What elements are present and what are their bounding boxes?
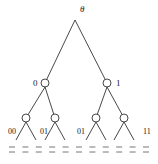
edge-l1-1-1 <box>107 87 122 114</box>
edge-leaf-right-0 <box>26 122 36 140</box>
tree-node-circle <box>51 114 59 122</box>
binary-tree-diagram: θ0100010111 <box>0 0 158 164</box>
level1-label-0: 0 <box>33 78 38 88</box>
edge-l1-0-0 <box>28 87 45 115</box>
tree-node-circle <box>92 114 100 122</box>
edge-root-1 <box>75 20 105 79</box>
edge-l1-0-1 <box>45 87 54 114</box>
leaf-label-1: 01 <box>40 127 48 136</box>
leaf-label-2: 01 <box>77 127 85 136</box>
tree-node-circle <box>120 114 128 122</box>
edge-root-0 <box>47 20 75 79</box>
leaf-dash-rows <box>9 147 149 152</box>
root-label: θ <box>80 4 85 14</box>
edge-leaf-right-1 <box>55 122 65 140</box>
level1-label-1: 1 <box>116 78 121 88</box>
edge-leaf-right-3 <box>124 122 134 140</box>
tree-nodes <box>22 79 128 122</box>
leaf-label-0: 00 <box>8 127 16 136</box>
edge-leaf-left-0 <box>16 122 26 140</box>
tree-node-circle <box>103 79 111 87</box>
edge-leaf-left-2 <box>86 122 96 140</box>
edge-leaf-left-3 <box>114 122 124 140</box>
tree-node-circle <box>41 79 49 87</box>
leaf-label-3: 11 <box>143 127 151 136</box>
edge-leaf-right-2 <box>96 122 106 140</box>
edge-l1-1-0 <box>97 87 107 114</box>
tree-node-circle <box>22 114 30 122</box>
